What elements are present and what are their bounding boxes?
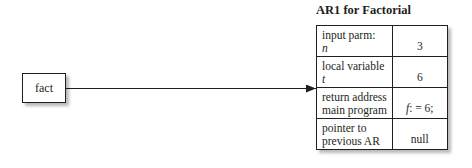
ar-row-value: null bbox=[392, 119, 447, 150]
ar-row-label: local variable t bbox=[317, 57, 393, 88]
ar-row-value: f: = 6; bbox=[392, 88, 447, 119]
ar-row-previous-ar-pointer: pointer to previous AR null bbox=[317, 119, 448, 150]
fact-caller-box: fact bbox=[22, 73, 66, 103]
activation-record-table: input parm: n 3 local variable t 6 retur… bbox=[316, 25, 448, 150]
activation-record-title: AR1 for Factorial bbox=[316, 3, 411, 18]
ar-row-label: return address main program bbox=[317, 88, 393, 119]
ar-row-value: 3 bbox=[392, 26, 447, 57]
ar-row-return-address: return address main program f: = 6; bbox=[317, 88, 448, 119]
ar-row-value: 6 bbox=[392, 57, 447, 88]
ar-row-input-parm: input parm: n 3 bbox=[317, 26, 448, 57]
ar-row-label: input parm: n bbox=[317, 26, 393, 57]
fact-label: fact bbox=[35, 81, 53, 96]
ar-row-label: pointer to previous AR bbox=[317, 119, 393, 150]
ar-row-local-variable: local variable t 6 bbox=[317, 57, 448, 88]
